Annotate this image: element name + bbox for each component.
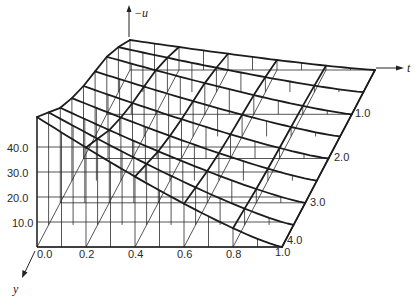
t-tick-1: 1.0 bbox=[355, 107, 370, 119]
t-axis-label: t bbox=[407, 61, 411, 75]
u-tick-30: 30.0 bbox=[7, 167, 28, 179]
t-axis-arrow-icon bbox=[396, 66, 404, 71]
x-tick-0.8: 0.8 bbox=[226, 248, 241, 260]
y-axis: y bbox=[12, 251, 35, 296]
x-tick-0.6: 0.6 bbox=[177, 248, 192, 260]
x-tick-0.4: 0.4 bbox=[128, 248, 143, 260]
u-tick-10: 10.0 bbox=[12, 217, 33, 229]
u-axis-arrow-icon bbox=[127, 5, 132, 12]
y-axis-arrow-icon bbox=[22, 270, 28, 278]
x-tick-labels: 0.0 0.2 0.4 0.6 0.8 1.0 bbox=[37, 246, 290, 260]
drop-lines bbox=[37, 40, 351, 247]
u-tick-40: 40.0 bbox=[7, 142, 28, 154]
t-tick-3: 3.0 bbox=[310, 196, 325, 208]
x-tick-1.0: 1.0 bbox=[275, 246, 290, 258]
t-axis: t bbox=[376, 61, 411, 75]
x-tick-0: 0.0 bbox=[37, 248, 52, 260]
u-axis-label: −u bbox=[134, 6, 148, 20]
t-tick-4: 4.0 bbox=[287, 234, 302, 246]
y-axis-label: y bbox=[12, 282, 19, 296]
surface-plot: −u t y 40.0 30.0 20.0 10.0 0.0 0.2 0.4 0… bbox=[0, 0, 415, 297]
u-axis: −u bbox=[127, 5, 149, 37]
u-tick-20: 20.0 bbox=[7, 192, 28, 204]
t-tick-2: 2.0 bbox=[334, 151, 349, 163]
x-tick-0.2: 0.2 bbox=[79, 248, 94, 260]
u-tick-labels: 40.0 30.0 20.0 10.0 bbox=[7, 142, 33, 229]
